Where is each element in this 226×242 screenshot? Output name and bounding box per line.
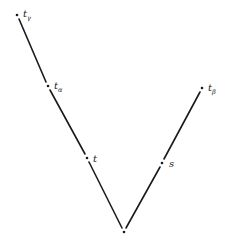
labels: tγ tα t s tβ <box>23 8 216 169</box>
segment-tgamma-talpha <box>19 19 46 82</box>
point-t-alpha <box>47 85 50 88</box>
point-s <box>161 162 164 165</box>
point-origin <box>123 231 126 234</box>
point-t <box>86 157 89 160</box>
label-t-beta: tβ <box>208 82 216 96</box>
point-t-gamma <box>16 14 19 17</box>
label-t-gamma: tγ <box>23 8 31 22</box>
segment-origin-s <box>126 167 160 228</box>
segments <box>19 19 200 228</box>
points <box>16 14 204 234</box>
point-t-beta <box>201 87 204 90</box>
segment-t-origin <box>89 162 122 228</box>
label-s: s <box>169 158 174 169</box>
label-t-alpha: tα <box>54 80 63 94</box>
segment-s-tbeta <box>164 92 200 159</box>
segment-talpha-t <box>50 90 85 154</box>
label-t: t <box>93 153 98 164</box>
v-diagram: tγ tα t s tβ <box>0 0 226 242</box>
